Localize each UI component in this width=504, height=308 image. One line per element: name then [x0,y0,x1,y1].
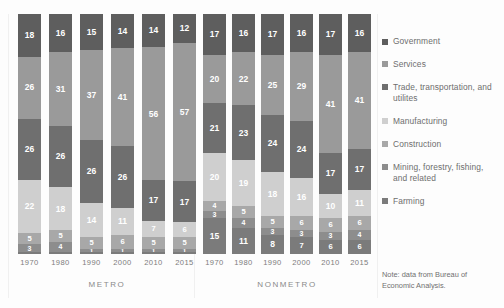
bar-segment[interactable]: 4 [203,201,226,211]
bar-segment[interactable]: 3 [261,228,284,235]
legend-item[interactable]: Mining, forestry, fishing, and related [382,162,500,185]
bar-segment[interactable]: 25 [261,55,284,115]
bar-segment[interactable]: 41 [111,48,134,146]
bar-segment[interactable]: 11 [348,190,371,216]
bar-segment[interactable]: 29 [290,52,313,121]
bar-segment[interactable]: 16 [290,178,313,216]
bar-segment[interactable]: 20 [203,153,226,201]
bar-segment[interactable]: 17 [173,181,196,222]
bar-segment[interactable]: 12 [173,14,196,43]
bar-segment[interactable]: 14 [142,14,165,47]
bar-segment[interactable]: 17 [348,149,371,189]
bar-segment[interactable]: 22 [18,180,41,232]
bar-segment[interactable]: 26 [111,146,134,208]
bar-segment[interactable]: 5 [261,216,284,228]
bar-segment[interactable] [18,252,41,254]
bar-segment[interactable]: 4 [232,218,255,228]
bar-segment[interactable]: 31 [49,52,72,126]
bar-segment[interactable]: 4 [49,242,72,252]
stacked-bar[interactable]: 1537261451 [80,14,103,254]
bar-segment[interactable]: 16 [290,14,313,52]
legend-item[interactable]: Construction [382,139,500,150]
bar-segment[interactable]: 5 [80,237,103,249]
bar-segment[interactable]: 16 [348,14,371,52]
bar-segment[interactable]: 6 [111,235,134,249]
stacked-bar[interactable]: 162223195411 [232,14,255,254]
bar-segment[interactable]: 21 [203,103,226,153]
stacked-bar[interactable]: 17411710636 [319,14,342,254]
bar-group-metro: 1826262253163126185415372614511441261161… [14,14,200,254]
bar-segment[interactable]: 3 [203,211,226,218]
bar-segment[interactable]: 5 [49,230,72,242]
bar-segment[interactable]: 6 [290,216,313,230]
bar-segment[interactable] [173,252,196,254]
bar-segment[interactable]: 57 [173,43,196,181]
stacked-bar[interactable]: 125717651 [173,14,196,254]
bar-segment[interactable]: 3 [18,244,41,251]
bar-segment[interactable]: 11 [111,208,134,234]
stacked-bar[interactable]: 1631261854 [49,14,72,254]
bar-segment[interactable]: 37 [80,50,103,140]
stacked-bar[interactable]: 1441261161 [111,14,134,254]
bar-segment[interactable] [49,252,72,254]
bar-segment[interactable]: 26 [49,126,72,188]
bar-segment[interactable]: 5 [232,206,255,218]
bar-segment[interactable]: 41 [319,55,342,153]
bar-segment[interactable]: 24 [261,115,284,173]
bar-segment[interactable]: 8 [261,235,284,254]
bar-segment[interactable] [80,252,103,254]
legend-item[interactable]: Farming [382,196,500,207]
bar-segment[interactable]: 7 [290,237,313,254]
bar-segment[interactable]: 4 [348,230,371,240]
bar-segment[interactable]: 5 [18,233,41,245]
bar-segment[interactable]: 6 [319,218,342,232]
bar-segment[interactable]: 17 [142,180,165,220]
bar-segment[interactable]: 23 [232,105,255,160]
bar-segment[interactable]: 15 [203,218,226,254]
bar-segment[interactable]: 56 [142,47,165,180]
bar-segment[interactable]: 16 [49,14,72,52]
bar-segment[interactable]: 17 [319,14,342,55]
bar-segment[interactable] [111,252,134,254]
bar-segment[interactable]: 26 [80,140,103,203]
bar-segment[interactable]: 18 [49,187,72,230]
bar-segment[interactable]: 14 [80,203,103,237]
bar-segment[interactable]: 6 [348,216,371,230]
bar-segment[interactable]: 6 [319,240,342,254]
stacked-bar[interactable]: 145617751 [142,14,165,254]
bar-segment[interactable]: 5 [173,237,196,249]
bar-segment[interactable]: 18 [261,172,284,215]
stacked-bar[interactable]: 172021204315 [203,14,226,254]
legend-item[interactable]: Services [382,59,500,70]
bar-segment[interactable]: 17 [319,153,342,194]
legend-item[interactable]: Manufacturing [382,116,500,127]
bar-segment[interactable]: 24 [290,121,313,178]
bar-segment[interactable]: 19 [232,160,255,206]
bar-segment[interactable]: 22 [232,52,255,105]
bar-segment[interactable]: 7 [142,221,165,238]
legend-item[interactable]: Trade, transportation, and utilites [382,82,500,105]
stacked-bar[interactable]: 16411711646 [348,14,371,254]
stacked-bar[interactable]: 16292416637 [290,14,313,254]
bar-segment[interactable]: 5 [142,237,165,249]
bar-segment[interactable]: 11 [232,228,255,254]
bar-segment[interactable]: 41 [348,52,371,149]
bar-segment[interactable]: 20 [203,55,226,103]
bar-segment[interactable]: 3 [290,230,313,237]
bar-segment[interactable]: 6 [348,240,371,254]
bar-segment[interactable]: 14 [111,14,134,48]
bar-segment[interactable]: 3 [319,232,342,239]
bar-segment[interactable]: 17 [203,14,226,55]
bar-segment[interactable]: 16 [232,14,255,52]
bar-segment[interactable]: 17 [261,14,284,55]
bar-segment[interactable]: 26 [18,119,41,181]
stacked-bar[interactable]: 17252418538 [261,14,284,254]
bar-segment[interactable]: 18 [18,14,41,57]
stacked-bar[interactable]: 1826262253 [18,14,41,254]
legend-item[interactable]: Government [382,36,500,47]
bar-segment[interactable]: 6 [173,222,196,237]
bar-segment[interactable]: 26 [18,57,41,119]
bar-segment[interactable]: 15 [80,14,103,50]
bar-segment[interactable]: 10 [319,194,342,218]
bar-segment[interactable] [142,252,165,254]
